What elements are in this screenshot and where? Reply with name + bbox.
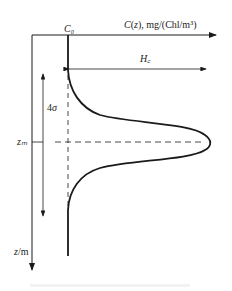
profile-diagram: [0, 0, 232, 291]
caption-faint: [30, 284, 190, 287]
peak-depth-label: zₘ: [17, 137, 27, 147]
baseline-label: C₀: [64, 24, 74, 34]
y-axis-label: z/m: [14, 247, 28, 257]
width-label: 4σ: [47, 103, 57, 113]
profile-curve: [68, 35, 210, 256]
peak-height-label: H꜀: [140, 54, 150, 64]
x-axis-label: C(z), mg/(Chl/m³): [124, 20, 196, 30]
